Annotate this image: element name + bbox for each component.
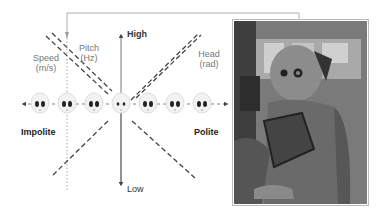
- face-icon: [85, 93, 103, 113]
- polite-label: Polite: [194, 127, 219, 137]
- pitch-label: Pitch (Hz): [74, 43, 104, 63]
- head-line-a: [131, 34, 198, 100]
- head-label: Head (rad): [192, 49, 226, 69]
- pepper-robot-illustration: [234, 21, 367, 204]
- low-label: Low: [127, 184, 144, 194]
- face-icon: [193, 93, 211, 113]
- face-icon: [58, 93, 76, 113]
- politeness-diagram: Speed (m/s) Pitch (Hz) Head (rad) High L…: [0, 0, 387, 215]
- head-line-lower: [53, 119, 110, 175]
- face-icon: [166, 93, 184, 113]
- speed-pitch-line-lower: [132, 121, 195, 178]
- face-icons: [31, 93, 211, 113]
- face-icon-neutral: [112, 93, 130, 113]
- speed-label: Speed (m/s): [28, 53, 64, 73]
- robot-photo: [232, 19, 369, 206]
- face-icon: [139, 93, 157, 113]
- impolite-label: Impolite: [21, 127, 56, 137]
- high-label: High: [127, 29, 147, 39]
- face-icon: [31, 93, 49, 113]
